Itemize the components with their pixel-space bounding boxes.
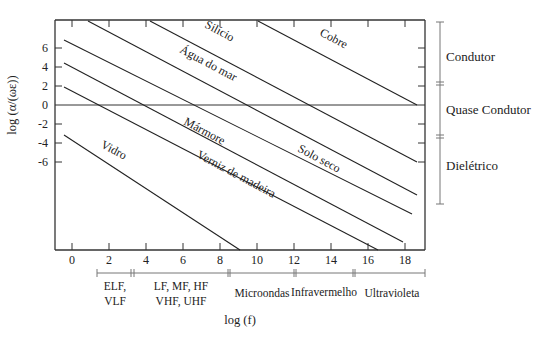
line-labels: Cobre Silício Água do mar Mármore Solo s… xyxy=(99,17,350,201)
line-silicio xyxy=(150,21,417,162)
x-tick-label: 6 xyxy=(180,253,186,267)
top-ticks xyxy=(72,20,405,27)
x-tick-label: 0 xyxy=(69,253,75,267)
x-tick-label: 12 xyxy=(288,253,300,267)
material-lines xyxy=(64,21,417,250)
x-tick-label: 14 xyxy=(325,253,337,267)
y-tick-label: 0 xyxy=(42,98,48,112)
x-tick-label: 8 xyxy=(217,253,223,267)
band-ultravioleta: Ultravioleta xyxy=(365,287,420,299)
y-tick-label: 2 xyxy=(42,79,48,93)
x-tick-label: 10 xyxy=(251,253,263,267)
band-elf-line2: VLF xyxy=(104,295,126,307)
label-verniz-de-madeira: Verniz de madeira xyxy=(195,147,279,201)
label-cobre: Cobre xyxy=(318,25,350,51)
region-labels: Condutor Quase Condutor Dielétrico xyxy=(446,49,532,173)
y-tick-labels: 6 4 2 0 -2 -4 -6 xyxy=(38,41,48,169)
line-marmore xyxy=(64,40,412,214)
line-agua-do-mar xyxy=(88,21,417,195)
band-microondas: Microondas xyxy=(235,287,290,299)
band-elf-line1: ELF, xyxy=(104,280,127,293)
band-lf-line2: VHF, UHF xyxy=(156,295,207,308)
y-tick-label: -2 xyxy=(38,117,48,131)
y-tick-label: -6 xyxy=(38,155,48,169)
region-dieletrico: Dielétrico xyxy=(446,158,498,173)
band-lf-line1: LF, MF, HF xyxy=(154,280,208,293)
label-solo-seco: Solo seco xyxy=(296,141,343,175)
x-tick-label: 16 xyxy=(362,253,374,267)
x-axis-title: log (f) xyxy=(224,313,256,327)
y-tick-label: -4 xyxy=(38,136,48,150)
band-infravermelho: Infravermelho xyxy=(291,286,357,298)
band-bracket xyxy=(97,269,425,277)
x-tick-labels: 0 2 4 6 8 10 12 14 16 18 xyxy=(69,253,411,267)
region-bracket xyxy=(436,22,444,204)
chart-canvas: 6 4 2 0 -2 -4 -6 0 2 4 6 8 10 12 14 16 1… xyxy=(0,0,551,344)
region-condutor: Condutor xyxy=(446,49,496,64)
region-quase-condutor: Quase Condutor xyxy=(446,102,532,117)
line-vidro xyxy=(64,135,240,250)
x-tick-label: 18 xyxy=(399,253,411,267)
y-tick-label: 4 xyxy=(42,60,48,74)
label-vidro: Vidro xyxy=(99,137,130,162)
plot-frame xyxy=(55,20,425,250)
x-tick-label: 2 xyxy=(106,253,112,267)
band-labels: ELF, VLF LF, MF, HF VHF, UHF Microondas … xyxy=(104,280,420,308)
y-tick-label: 6 xyxy=(42,41,48,55)
y-axis-title: log (α/(ωε)) xyxy=(5,75,19,134)
label-marmore: Mármore xyxy=(182,114,228,147)
x-tick-label: 4 xyxy=(143,253,149,267)
